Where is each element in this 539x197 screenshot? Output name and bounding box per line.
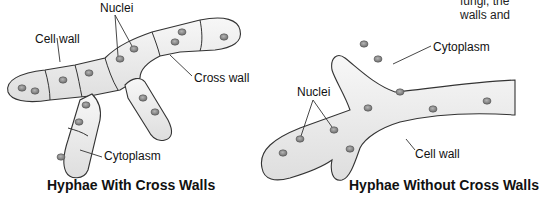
title-septate: Hyphae With Cross Walls — [47, 178, 215, 192]
label-cell-wall-left: Cell wall — [35, 33, 80, 45]
text-line: fungi, the — [460, 0, 510, 8]
coenocytic-hypha — [261, 56, 515, 181]
label-cross-wall: Cross wall — [194, 72, 249, 84]
title-coenocytic: Hyphae Without Cross Walls — [349, 178, 539, 192]
label-cell-wall-right: Cell wall — [415, 148, 460, 160]
label-nuclei-left: Nuclei — [100, 2, 133, 14]
label-cytoplasm-left: Cytoplasm — [104, 150, 161, 162]
label-cytoplasm-right: Cytoplasm — [433, 41, 490, 53]
label-nuclei-right: Nuclei — [297, 86, 330, 98]
page-text-fragment: fungi, the walls and — [460, 0, 510, 22]
text-line: walls and — [460, 8, 510, 22]
